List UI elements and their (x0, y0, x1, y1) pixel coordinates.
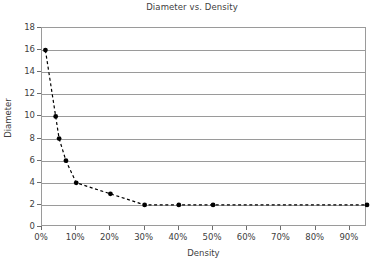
data-point-5 (108, 191, 113, 196)
x-tick-mark-90 (349, 226, 350, 230)
y-tick-label-6: 6 (30, 155, 35, 164)
x-tick-label-90pct: 90% (339, 233, 358, 242)
data-point-4 (74, 180, 79, 185)
y-tick-label-16: 16 (24, 45, 35, 54)
y-tick-label-2: 2 (30, 200, 35, 209)
data-point-2 (57, 136, 62, 141)
x-tick-label-70pct: 70% (271, 233, 290, 242)
x-tick-mark-0 (41, 226, 42, 230)
series-line (45, 50, 367, 205)
x-tick-mark-50 (212, 226, 213, 230)
x-tick-mark-70 (280, 226, 281, 230)
plot-area (41, 27, 366, 226)
y-tick-label-12: 12 (24, 89, 35, 98)
x-tick-mark-40 (178, 226, 179, 230)
y-tick-label-14: 14 (24, 67, 35, 76)
x-axis-title: Density (41, 248, 366, 258)
x-tick-label-30pct: 30% (134, 233, 153, 242)
x-tick-mark-80 (315, 226, 316, 230)
x-tick-label-10pct: 10% (66, 233, 85, 242)
x-tick-label-60pct: 60% (237, 233, 256, 242)
data-point-3 (64, 158, 69, 163)
series-markers (43, 48, 369, 208)
page-bleed-text (0, 264, 384, 270)
y-tick-label-0: 0 (30, 222, 35, 231)
chart-container: Diameter vs. Density Diameter 0246810121… (0, 0, 384, 270)
chart-title: Diameter vs. Density (0, 2, 384, 12)
y-tick-label-8: 8 (30, 133, 35, 142)
y-tick-label-10: 10 (24, 111, 35, 120)
data-point-9 (365, 202, 370, 207)
x-tick-mark-60 (246, 226, 247, 230)
x-tick-mark-10 (75, 226, 76, 230)
data-series (42, 28, 367, 227)
x-tick-mark-30 (144, 226, 145, 230)
data-point-8 (211, 202, 216, 207)
data-point-7 (176, 202, 181, 207)
y-axis: 024681012141618 (0, 27, 41, 226)
data-point-0 (43, 48, 48, 53)
y-tick-label-18: 18 (24, 23, 35, 32)
data-point-1 (53, 114, 58, 119)
x-tick-label-40pct: 40% (168, 233, 187, 242)
x-tick-mark-20 (109, 226, 110, 230)
x-tick-label-20pct: 20% (100, 233, 119, 242)
data-point-6 (142, 202, 147, 207)
x-tick-label-50pct: 50% (203, 233, 222, 242)
x-tick-label-0pct: 0% (34, 233, 48, 242)
x-tick-label-80pct: 80% (305, 233, 324, 242)
y-tick-label-4: 4 (30, 178, 35, 187)
